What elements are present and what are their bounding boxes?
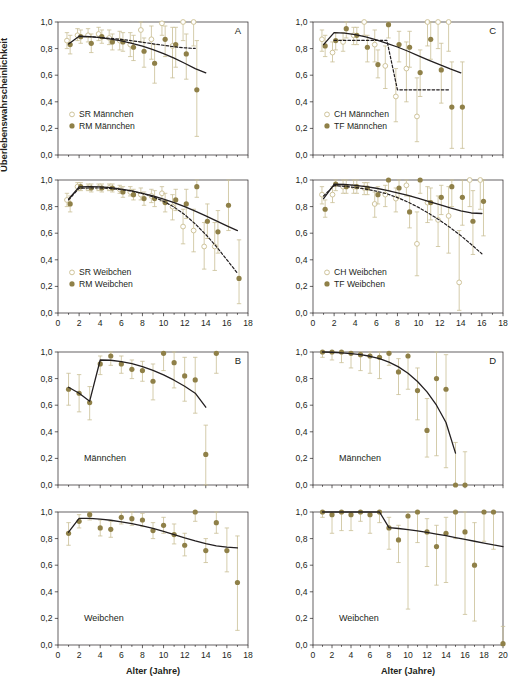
data-point-filled — [443, 387, 448, 392]
y-tick-label: 0,6 — [41, 70, 53, 80]
x-tick-label: 18 — [243, 318, 253, 328]
x-tick-label: 4 — [98, 318, 103, 328]
data-point-filled — [193, 509, 198, 514]
x-tick-label: 14 — [201, 650, 211, 660]
y-tick-label: 0,2 — [296, 613, 308, 623]
data-point-filled — [129, 367, 134, 372]
data-point-filled — [386, 351, 391, 356]
y-tick-label: 1,0 — [41, 507, 53, 517]
x-tick-label: 18 — [243, 650, 253, 660]
data-point-open — [457, 280, 462, 285]
y-tick-label: 0,4 — [296, 587, 308, 597]
data-point-filled — [236, 276, 241, 281]
data-point-filled — [449, 105, 454, 110]
data-point-open — [404, 183, 409, 188]
y-tick-label: 0,8 — [296, 202, 308, 212]
legend-label: RM Weibchen — [79, 279, 133, 289]
legend-label: RM Männchen — [79, 121, 135, 131]
data-point-filled — [141, 49, 146, 54]
y-tick-label: 1,0 — [296, 17, 308, 27]
data-point-filled — [344, 26, 349, 31]
data-point-open — [383, 63, 388, 68]
x-tick-label: 16 — [222, 650, 232, 660]
data-point-open — [149, 37, 154, 42]
y-tick-label: 0,6 — [296, 70, 308, 80]
data-point-filled — [439, 195, 444, 200]
y-axis-label: Überlebenswahrscheinlichkeit — [0, 0, 9, 225]
data-point-filled — [184, 51, 189, 56]
data-point-open — [446, 214, 451, 219]
series-sr-weibchen — [65, 183, 218, 271]
y-tick-label: 0,0 — [296, 308, 308, 318]
x-tick-label: 16 — [477, 318, 487, 328]
x-tick-label: 16 — [222, 318, 232, 328]
data-point-open — [436, 20, 441, 25]
y-tick-label: 1,0 — [296, 347, 308, 357]
data-point-filled — [323, 207, 328, 212]
x-tick-label: 6 — [119, 650, 124, 660]
x-tick-label: 2 — [332, 318, 337, 328]
y-tick-label: 0,8 — [41, 534, 53, 544]
data-point-open — [181, 20, 186, 25]
data-point-filled — [375, 192, 380, 197]
y-tick-label: 0,6 — [41, 228, 53, 238]
data-point-open — [446, 20, 451, 25]
y-tick-label: 0,4 — [41, 97, 53, 107]
series-ch-weibchen — [320, 178, 483, 311]
data-point-open — [160, 21, 165, 26]
panel-id-label: D — [489, 355, 496, 366]
x-tick-label: 4 — [349, 650, 354, 660]
y-tick-label: 1,0 — [296, 507, 308, 517]
y-tick-label: 0,8 — [296, 44, 308, 54]
data-point-filled — [365, 45, 370, 50]
y-tick-label: 0,6 — [296, 560, 308, 570]
figure-canvas: 0,00,20,40,60,81,0ASR MännchenRM Männche… — [0, 0, 526, 688]
legend-label: SR Männchen — [79, 109, 134, 119]
x-tick-label: 10 — [159, 650, 169, 660]
data-point-filled — [428, 37, 433, 42]
data-point-filled — [396, 537, 401, 542]
panel-A2: 0,00,20,40,60,81,0024681012141618SR Weib… — [41, 175, 253, 328]
data-point-filled — [405, 353, 410, 358]
data-point-open — [181, 224, 186, 229]
data-point-filled — [194, 87, 199, 92]
data-point-open — [191, 20, 196, 25]
y-tick-label: 0,2 — [296, 453, 308, 463]
panel-id-label: A — [235, 25, 242, 36]
x-tick-label: 16 — [460, 650, 470, 660]
data-point-filled — [224, 548, 229, 553]
data-point-open — [65, 38, 70, 43]
data-point-filled — [140, 517, 145, 522]
legend-marker-filled — [69, 123, 74, 128]
series-tf-weibchen — [323, 177, 487, 254]
x-tick-label: 2 — [330, 650, 335, 660]
data-point-filled — [453, 482, 458, 487]
data-point-filled — [214, 351, 219, 356]
y-tick-label: 0,2 — [296, 281, 308, 291]
y-tick-label: 0,8 — [41, 202, 53, 212]
x-tick-label: 18 — [498, 318, 508, 328]
data-point-open — [330, 50, 335, 55]
panel-A: 0,00,20,40,60,81,0ASR MännchenRM Männche… — [41, 17, 248, 160]
fitted-curve-dashed — [324, 186, 482, 254]
x-tick-label: 10 — [159, 318, 169, 328]
legend-label: TF Männchen — [334, 121, 387, 131]
data-point-filled — [152, 61, 157, 66]
y-tick-label: 1,0 — [41, 17, 53, 27]
data-point-filled — [150, 379, 155, 384]
data-point-filled — [434, 544, 439, 549]
data-point-filled — [89, 41, 94, 46]
y-tick-label: 0,2 — [41, 123, 53, 133]
data-point-filled — [407, 209, 412, 214]
x-tick-label: 12 — [435, 318, 445, 328]
y-tick-label: 1,0 — [41, 347, 53, 357]
data-point-filled — [386, 177, 391, 182]
legend-label: CH Weibchen — [334, 267, 387, 277]
y-tick-label: 0,2 — [41, 281, 53, 291]
data-point-filled — [491, 509, 496, 514]
data-point-filled — [386, 22, 391, 27]
x-tick-label: 8 — [395, 318, 400, 328]
x-tick-label: 8 — [387, 650, 392, 660]
y-tick-label: 0,2 — [41, 453, 53, 463]
x-tick-label: 2 — [77, 650, 82, 660]
